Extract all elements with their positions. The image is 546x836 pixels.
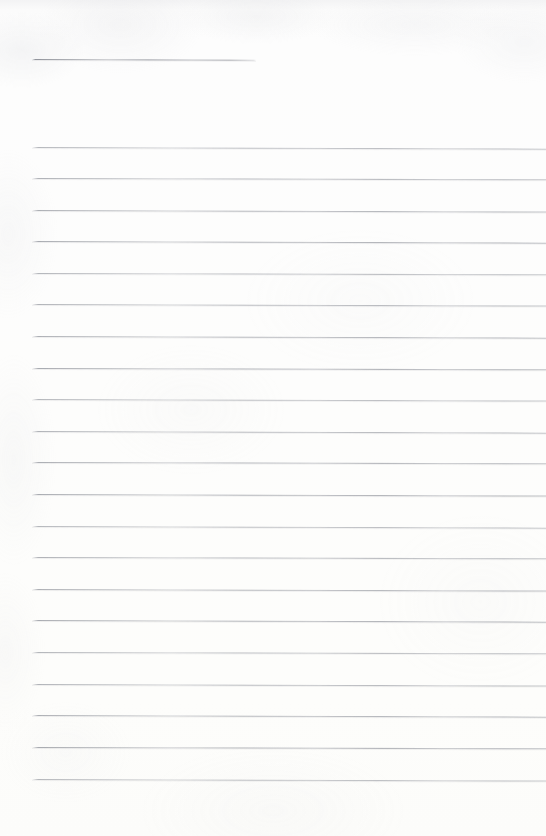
rule-9 (32, 399, 546, 402)
rule-11 (32, 462, 546, 464)
rule-8 (32, 368, 546, 370)
rule-6 (32, 304, 546, 307)
rule-18 (32, 684, 546, 687)
rule-21 (32, 779, 546, 782)
notebook-page (0, 0, 546, 836)
rule-4 (32, 241, 546, 244)
rule-12 (32, 494, 546, 497)
rule-14 (32, 557, 546, 559)
rule-7 (32, 336, 546, 339)
rule-10 (32, 431, 546, 434)
rule-15 (32, 589, 546, 592)
rule-3 (32, 210, 546, 213)
rule-17 (32, 652, 546, 654)
rule-5 (32, 273, 546, 275)
header-rule (32, 59, 256, 61)
rule-19 (32, 715, 546, 718)
ruled-lines-layer (0, 0, 546, 836)
rule-2 (32, 178, 546, 180)
rule-20 (32, 747, 546, 749)
rule-16 (32, 620, 546, 623)
rule-13 (32, 526, 546, 529)
rule-1 (32, 147, 546, 150)
